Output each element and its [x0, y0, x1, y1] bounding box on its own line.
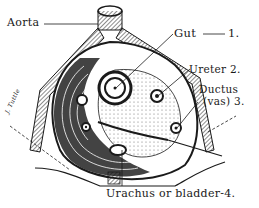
label-urachus: Urachus or bladder-4. [106, 188, 235, 199]
label-ductus-line2: (vas) 3. [203, 96, 245, 107]
label-gut: Gut [174, 28, 196, 40]
label-ureter: Ureter 2. [189, 64, 241, 75]
dashed-plane-right [208, 116, 236, 132]
label-ductus-line1: Ductus [199, 84, 238, 95]
anatomy-figure: Aorta Gut 1. Ureter 2. Ductus (vas) 3. U… [0, 0, 259, 208]
label-gut-number: 1. [228, 28, 240, 40]
gut-structure [99, 72, 131, 104]
label-aorta: Aorta [7, 17, 39, 28]
